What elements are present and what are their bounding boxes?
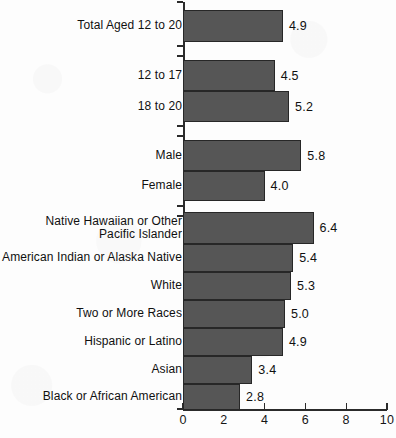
y-axis-tick-2 bbox=[177, 55, 183, 56]
bar-chart-plot-area: 02468104.9Total Aged 12 to 204.512 to 17… bbox=[0, 0, 396, 438]
category-label-2: 18 to 20 bbox=[138, 100, 182, 114]
category-label-4: Female bbox=[141, 179, 182, 193]
bar-6 bbox=[183, 244, 293, 272]
category-label-8: Two or More Races bbox=[76, 307, 182, 321]
category-label-5: Native Hawaiian or Other Pacific Islande… bbox=[46, 215, 182, 242]
x-axis-tick-8 bbox=[346, 403, 347, 410]
category-label-10: Asian bbox=[151, 363, 182, 377]
bar-value-label-1: 4.5 bbox=[281, 69, 299, 83]
bar-5 bbox=[183, 212, 314, 244]
bar-value-label-7: 5.3 bbox=[297, 279, 315, 293]
bar-11 bbox=[183, 384, 240, 410]
bar-value-label-6: 5.4 bbox=[299, 251, 317, 265]
bar-value-label-10: 3.4 bbox=[258, 363, 276, 377]
x-axis-tick-10 bbox=[386, 403, 387, 410]
bar-10 bbox=[183, 356, 252, 384]
bar-9 bbox=[183, 328, 283, 356]
y-axis-tick-1 bbox=[177, 45, 183, 46]
bar-0 bbox=[183, 10, 283, 42]
bar-3 bbox=[183, 140, 301, 171]
x-axis-tick-label-2: 2 bbox=[209, 413, 239, 427]
category-label-11: Black or African American bbox=[43, 390, 182, 404]
bar-value-label-0: 4.9 bbox=[289, 19, 307, 33]
category-label-1: 12 to 17 bbox=[138, 69, 182, 83]
category-label-7: White bbox=[151, 279, 182, 293]
bar-8 bbox=[183, 300, 285, 328]
y-axis-tick-3 bbox=[177, 125, 183, 126]
category-label-3: Male bbox=[156, 149, 182, 163]
bar-value-label-5: 6.4 bbox=[320, 221, 338, 235]
x-axis-tick-4 bbox=[264, 403, 265, 410]
x-axis-tick-label-0: 0 bbox=[168, 413, 198, 427]
x-axis-tick-label-10: 10 bbox=[372, 413, 396, 427]
category-label-0: Total Aged 12 to 20 bbox=[77, 19, 182, 33]
bar-value-label-3: 5.8 bbox=[307, 149, 325, 163]
bar-value-label-8: 5.0 bbox=[291, 307, 309, 321]
x-axis-tick-label-8: 8 bbox=[331, 413, 361, 427]
bar-value-label-4: 4.0 bbox=[271, 179, 289, 193]
category-label-6: American Indian or Alaska Native bbox=[2, 251, 182, 265]
category-label-9: Hispanic or Latino bbox=[84, 335, 182, 349]
bar-1 bbox=[183, 60, 275, 91]
bar-7 bbox=[183, 272, 291, 300]
bar-4 bbox=[183, 171, 265, 201]
y-axis-tick-4 bbox=[177, 135, 183, 136]
bar-value-label-11: 2.8 bbox=[246, 390, 264, 404]
y-axis-tick-0 bbox=[177, 1, 183, 2]
chart-container: 02468104.9Total Aged 12 to 204.512 to 17… bbox=[0, 0, 396, 438]
bar-value-label-9: 4.9 bbox=[289, 335, 307, 349]
x-axis-tick-6 bbox=[305, 403, 306, 410]
x-axis-tick-label-4: 4 bbox=[250, 413, 280, 427]
bar-2 bbox=[183, 91, 289, 122]
bar-value-label-2: 5.2 bbox=[295, 100, 313, 114]
x-axis-tick-label-6: 6 bbox=[290, 413, 320, 427]
y-axis-tick-5 bbox=[177, 205, 183, 206]
